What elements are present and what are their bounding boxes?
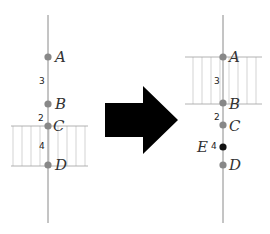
gap-bc: 2 bbox=[38, 113, 44, 123]
diagram-canvas: A B C D 3 2 4 A B C E D 3 2 4 bbox=[0, 0, 270, 234]
label-c: C bbox=[229, 117, 241, 135]
highlight-band-ab bbox=[186, 57, 262, 104]
point-e bbox=[219, 143, 226, 150]
gap-bc: 2 bbox=[214, 112, 220, 122]
label-e: E bbox=[196, 138, 208, 156]
point-b bbox=[219, 99, 226, 106]
gap-ab: 3 bbox=[214, 76, 220, 86]
point-a bbox=[219, 53, 226, 60]
gap-cd: 4 bbox=[39, 141, 45, 151]
label-a: A bbox=[53, 48, 66, 66]
label-a: A bbox=[227, 48, 240, 66]
point-a bbox=[44, 53, 51, 60]
label-b: B bbox=[228, 95, 240, 113]
point-d bbox=[44, 161, 51, 168]
after-panel: A B C E D 3 2 4 bbox=[185, 15, 262, 223]
point-c bbox=[219, 121, 226, 128]
highlight-band-cd bbox=[12, 126, 88, 166]
label-c: C bbox=[53, 117, 65, 135]
point-b bbox=[44, 100, 51, 107]
label-d: D bbox=[54, 156, 67, 174]
gap-ab: 3 bbox=[39, 76, 45, 86]
point-d bbox=[219, 161, 226, 168]
gap-e: 4 bbox=[211, 141, 217, 151]
point-c bbox=[44, 122, 51, 129]
label-b: B bbox=[54, 95, 66, 113]
label-d: D bbox=[228, 156, 241, 174]
transform-arrow-icon bbox=[105, 86, 178, 154]
before-panel: A B C D 3 2 4 bbox=[11, 15, 88, 223]
